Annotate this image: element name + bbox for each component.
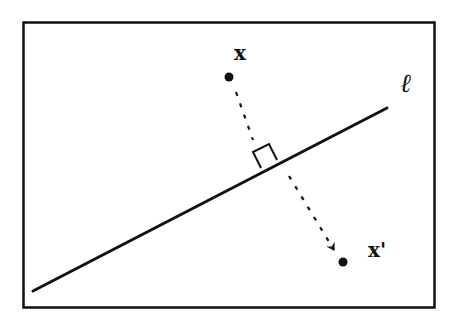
reflection-diagram: x x' ℓ: [0, 0, 458, 326]
point-x: [225, 73, 234, 82]
label-line-l: ℓ: [400, 68, 411, 98]
line-l: [33, 108, 387, 291]
point-x-prime: [339, 258, 348, 267]
label-x-prime: x': [368, 238, 386, 262]
label-x: x: [234, 41, 247, 65]
projection-dash-upper: [236, 92, 253, 140]
reflection-arrow: [289, 176, 334, 250]
right-angle-marker: [253, 144, 277, 168]
